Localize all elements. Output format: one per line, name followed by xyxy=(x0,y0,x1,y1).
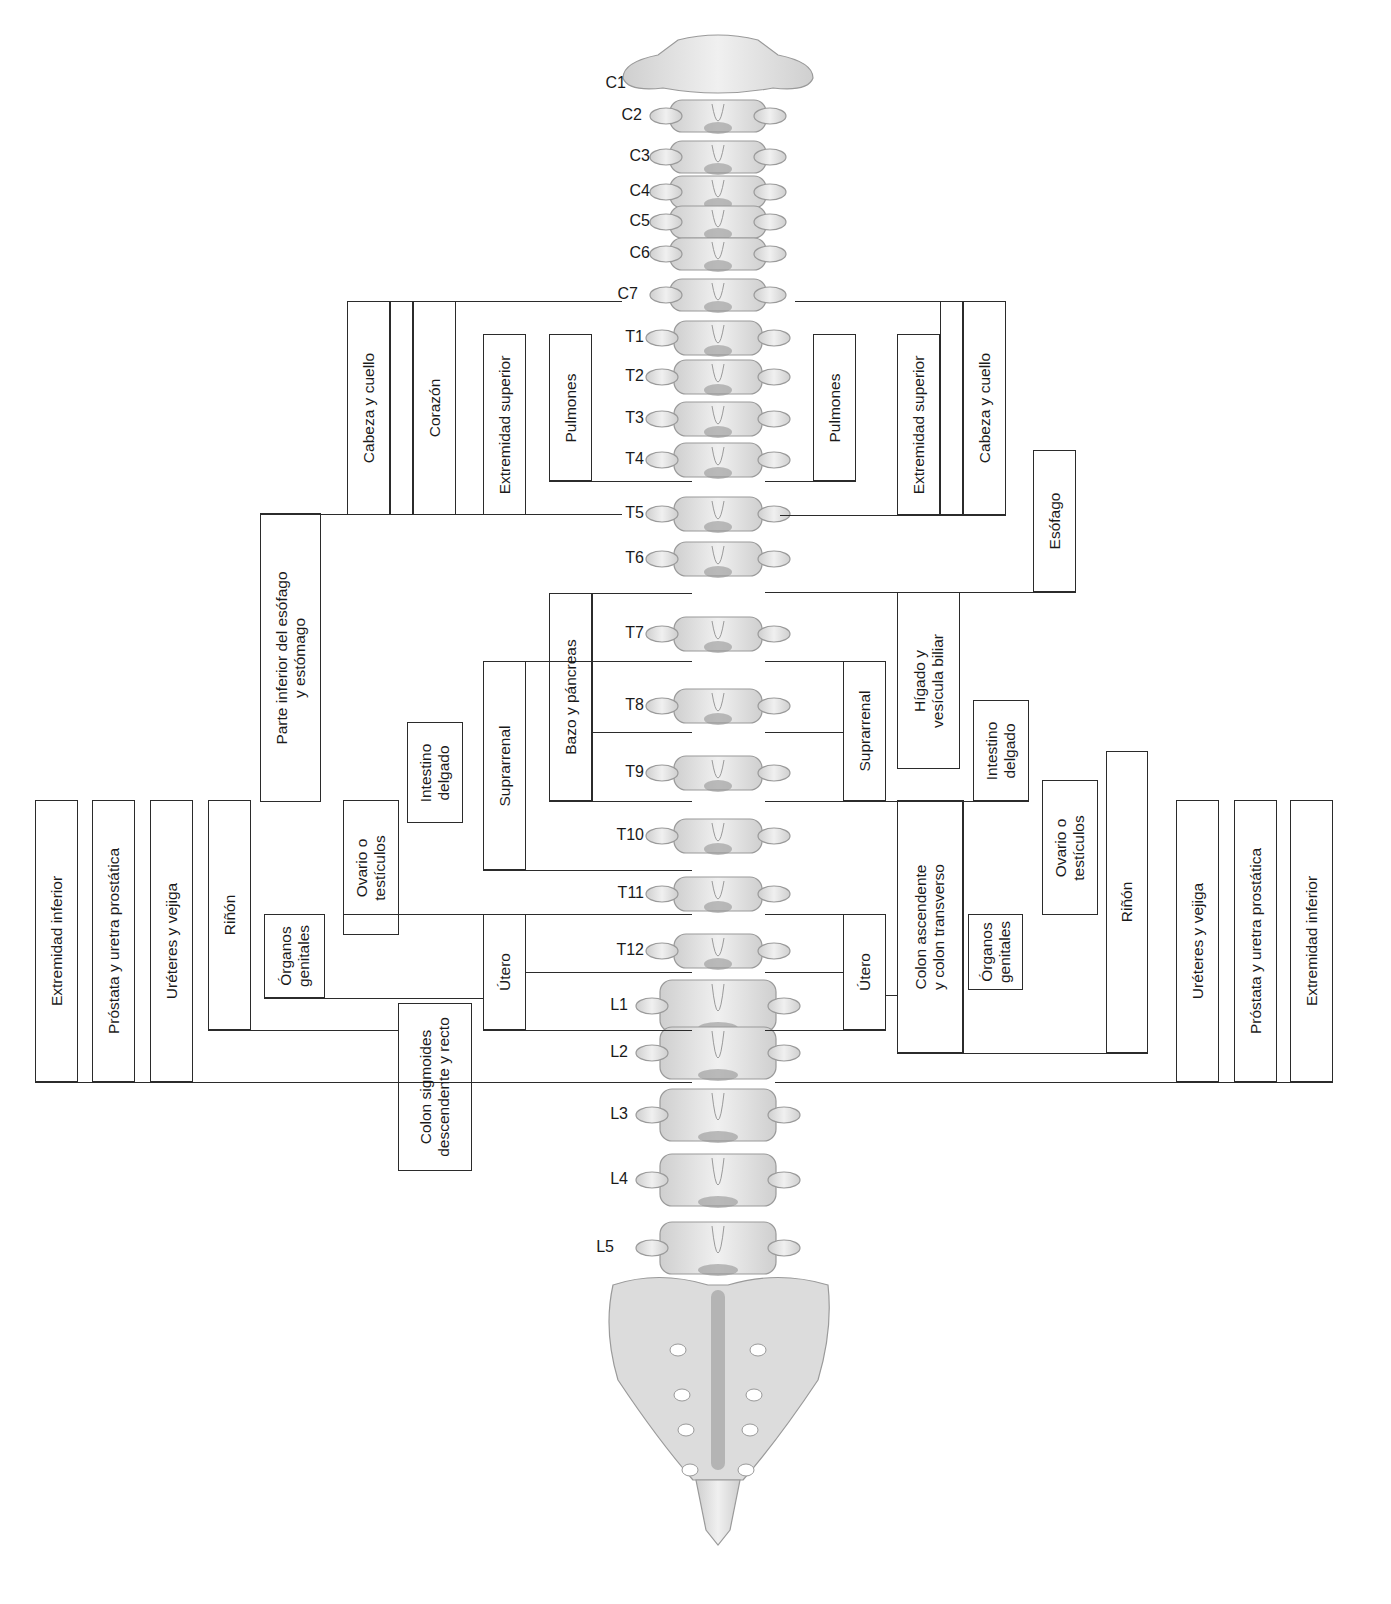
organ-label: Suprarrenal xyxy=(856,691,874,772)
organ-label: Extremidad superior xyxy=(910,355,928,494)
connector-hline xyxy=(765,732,843,733)
organ-box-r-pulmones: Pulmones xyxy=(813,334,856,481)
connector-hline xyxy=(765,972,843,973)
organ-label: Suprarrenal xyxy=(496,725,514,806)
vertebra-label-l2: L2 xyxy=(588,1043,628,1061)
organ-label: Esófago xyxy=(1046,493,1064,550)
connector-hline xyxy=(483,870,692,871)
organ-box-r-ureteres: Uréteres y vejiga xyxy=(1176,800,1219,1082)
organ-label: Ovario o testículos xyxy=(1052,815,1088,880)
organ-box-r-intestino: Intestino delgado xyxy=(973,700,1029,801)
organ-label: Extremidad inferior xyxy=(1303,876,1321,1006)
connector-hline xyxy=(549,801,692,802)
vertebra-label-c2: C2 xyxy=(602,106,642,124)
organ-label: Extremidad superior xyxy=(496,355,514,494)
vertebra-label-l5: L5 xyxy=(574,1238,614,1256)
organ-label: Riñón xyxy=(221,895,239,936)
organ-label: Colon ascendente y colon transverso xyxy=(912,864,948,990)
vertebra-label-t5: T5 xyxy=(604,504,644,522)
vertebra-label-c1: C1 xyxy=(586,74,626,92)
organ-label: Ovario o testículos xyxy=(353,835,389,900)
organ-label: Órganos genitales xyxy=(978,921,1014,983)
vertebra-label-t12: T12 xyxy=(604,941,644,959)
vertebra-label-t2: T2 xyxy=(604,367,644,385)
vertebra-label-l1: L1 xyxy=(588,996,628,1014)
organ-label: Intestino delgado xyxy=(983,721,1019,780)
vertebra-label-t11: T11 xyxy=(604,884,644,902)
organ-box-l-ovario: Ovario o testículos xyxy=(343,800,399,935)
organ-label: Útero xyxy=(496,953,514,991)
organ-label: Intestino delgado xyxy=(417,743,453,802)
organ-box-l-ext-sup: Extremidad superior xyxy=(483,334,526,515)
organ-label: Colon sigmoides descendente y recto xyxy=(417,1017,453,1157)
organ-label: Uréteres y vejiga xyxy=(163,883,181,999)
connector-hline xyxy=(264,998,483,999)
connector-vline xyxy=(963,800,964,1053)
organ-label: Corazón xyxy=(426,379,444,438)
vertebra-label-t8: T8 xyxy=(604,696,644,714)
organ-label: Cabeza y cuello xyxy=(976,353,994,463)
connector-hline xyxy=(897,1053,1148,1054)
connector-vline xyxy=(592,593,593,801)
organ-box-r-rinon: Riñón xyxy=(1106,751,1148,1053)
organ-box-r-ext-inf: Extremidad inferior xyxy=(1290,800,1333,1082)
organ-label: Uréteres y vejiga xyxy=(1189,883,1207,999)
vertebra-label-t1: T1 xyxy=(604,328,644,346)
vertebra-label-t10: T10 xyxy=(604,826,644,844)
vertebra-label-l4: L4 xyxy=(588,1170,628,1188)
connector-hline xyxy=(549,481,692,482)
organ-box-l-utero: Útero xyxy=(483,914,526,1030)
organ-label: Órganos genitales xyxy=(277,925,313,987)
vertebra-label-t4: T4 xyxy=(604,450,644,468)
vertebra-label-t3: T3 xyxy=(604,409,644,427)
organ-box-r-ovario: Ovario o testículos xyxy=(1042,780,1098,915)
organ-label: Extremidad inferior xyxy=(48,876,66,1006)
organ-label: Pulmones xyxy=(826,373,844,442)
vertebra-label-c4: C4 xyxy=(610,182,650,200)
connector-hline xyxy=(886,995,897,996)
vertebra-label-c5: C5 xyxy=(610,212,650,230)
organ-label: Riñón xyxy=(1118,882,1136,923)
vertebra-label-l3: L3 xyxy=(588,1105,628,1123)
vertebra-label-t6: T6 xyxy=(604,549,644,567)
organ-label: Bazo y páncreas xyxy=(562,639,580,754)
spinal-innervation-diagram: Cabeza y cuelloCorazónExtremidad superio… xyxy=(0,0,1391,1604)
vertebra-label-c6: C6 xyxy=(610,244,650,262)
connector-hline xyxy=(765,481,856,482)
organ-label: Pulmones xyxy=(562,373,580,442)
organ-box-l-corazon: Corazón xyxy=(413,301,456,515)
organ-box-r-colon-asc: Colon ascendente y colon transverso xyxy=(897,800,963,1053)
connector-hline xyxy=(526,972,692,973)
organ-label: Útero xyxy=(856,953,874,991)
organ-box-l-bazo: Bazo y páncreas xyxy=(549,593,592,801)
connector-hline xyxy=(592,732,692,733)
organ-label: Próstata y uretra prostática xyxy=(1247,848,1265,1034)
organ-box-l-prostata: Próstata y uretra prostática xyxy=(92,800,135,1082)
organ-label: Próstata y uretra prostática xyxy=(105,848,123,1034)
organ-box-l-esofago-est: Parte inferior del esófago y estómago xyxy=(260,513,321,802)
vertebra-label-c7: C7 xyxy=(598,285,638,303)
organ-box-r-blank xyxy=(940,301,963,515)
organ-label: Hígado y vesícula biliar xyxy=(911,634,947,728)
vertebra-label-c3: C3 xyxy=(610,147,650,165)
organ-label: Parte inferior del esófago y estómago xyxy=(273,571,309,744)
organ-box-r-utero: Útero xyxy=(843,914,886,1030)
organ-box-l-cabeza: Cabeza y cuello xyxy=(347,301,390,515)
vertebra-label-t7: T7 xyxy=(604,624,644,642)
organ-box-l-suprarrenal: Suprarrenal xyxy=(483,661,526,870)
organ-box-r-prostata: Próstata y uretra prostática xyxy=(1234,800,1277,1082)
connector-hline xyxy=(483,1030,692,1031)
organ-box-l-organos: Órganos genitales xyxy=(264,914,325,998)
organ-box-r-ext-sup: Extremidad superior xyxy=(897,334,940,515)
organ-box-l-ureteres: Uréteres y vejiga xyxy=(150,800,193,1082)
vertebra-label-t9: T9 xyxy=(604,763,644,781)
connector-hline xyxy=(765,1030,886,1031)
connector-hline xyxy=(208,1030,398,1031)
organ-box-l-intestino: Intestino delgado xyxy=(407,722,463,823)
organ-label: Cabeza y cuello xyxy=(360,353,378,463)
organ-box-r-cabeza: Cabeza y cuello xyxy=(963,301,1006,515)
connector-hline xyxy=(35,1082,692,1083)
organ-box-r-higado: Hígado y vesícula biliar xyxy=(897,592,960,769)
organ-box-r-suprarrenal: Suprarrenal xyxy=(843,661,886,801)
organ-box-l-blank1 xyxy=(390,301,413,515)
